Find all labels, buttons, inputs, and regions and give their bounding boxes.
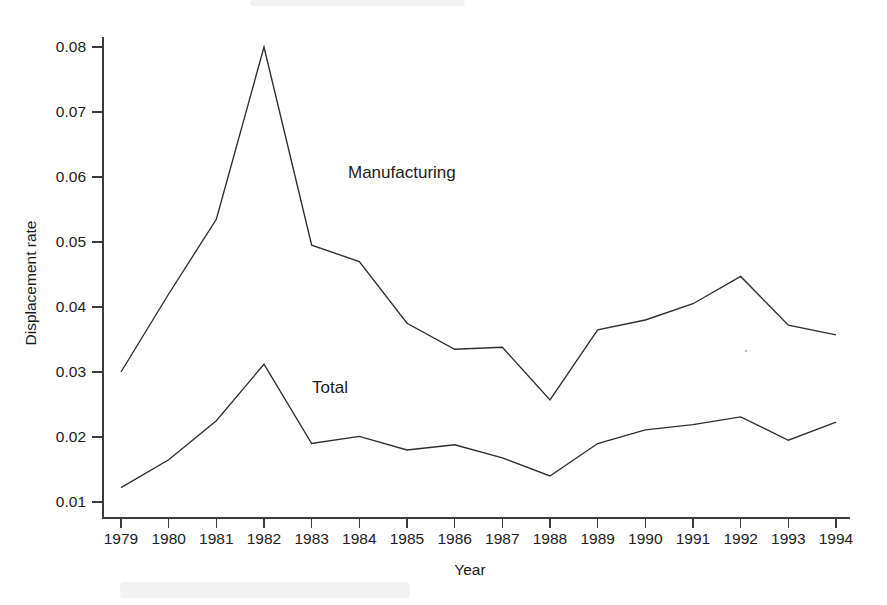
x-axis-tick-label: 1985	[390, 530, 424, 547]
y-axis-ticks	[92, 47, 103, 502]
x-axis-tick-label: 1991	[676, 530, 710, 547]
x-axis-tick-labels: 1979198019811982198319841985198619871988…	[104, 530, 854, 547]
x-axis-tick-label: 1989	[580, 530, 614, 547]
x-axis-tick-label: 1983	[294, 530, 328, 547]
y-axis-tick-label: 0.07	[56, 103, 86, 120]
x-axis-tick-label: 1990	[628, 530, 663, 547]
series-label-total: Total	[312, 378, 348, 397]
x-axis-title: Year	[454, 561, 485, 578]
y-axis-tick-label: 0.02	[56, 428, 86, 445]
chart-svg: 0.010.020.030.040.050.060.070.08 1979198…	[0, 0, 887, 605]
x-axis-ticks	[121, 518, 836, 528]
x-axis-tick-label: 1987	[485, 530, 519, 547]
x-axis-tick-label: 1982	[247, 530, 281, 547]
x-axis-tick-label: 1980	[151, 530, 186, 547]
chart-axes	[92, 37, 850, 528]
x-axis-tick-label: 1993	[771, 530, 805, 547]
x-axis-tick-label: 1984	[342, 530, 377, 547]
series-line-total	[121, 364, 836, 488]
series-line-manufacturing	[121, 47, 836, 400]
line-chart-figure: 0.010.020.030.040.050.060.070.08 1979198…	[0, 0, 887, 605]
series-label-manufacturing: Manufacturing	[348, 163, 456, 182]
y-axis-tick-label: 0.04	[56, 298, 87, 315]
y-axis-tick-label: 0.01	[56, 493, 86, 510]
scan-artifacts	[120, 0, 747, 598]
x-axis-tick-label: 1994	[819, 530, 854, 547]
x-axis-tick-label: 1986	[437, 530, 471, 547]
x-axis-tick-label: 1988	[533, 530, 567, 547]
y-axis-tick-label: 0.03	[56, 363, 86, 380]
y-axis-title: Displacement rate	[22, 221, 39, 346]
y-axis-tick-label: 0.08	[56, 38, 86, 55]
y-axis-tick-label: 0.06	[56, 168, 86, 185]
y-axis-tick-label: 0.05	[56, 233, 86, 250]
x-axis-tick-label: 1992	[723, 530, 757, 547]
figure-page: 0.010.020.030.040.050.060.070.08 1979198…	[0, 0, 887, 605]
y-axis-tick-labels: 0.010.020.030.040.050.060.070.08	[56, 38, 87, 510]
x-axis-tick-label: 1979	[104, 530, 138, 547]
x-axis-tick-label: 1981	[199, 530, 233, 547]
